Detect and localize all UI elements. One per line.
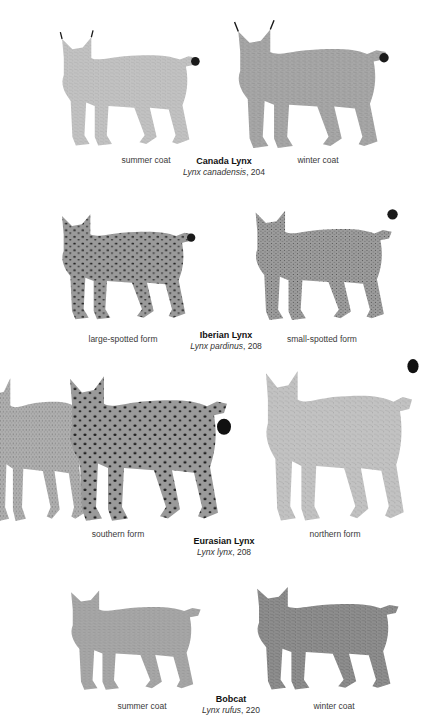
species-scientific-line: Lynx rufus, 220 xyxy=(202,705,260,716)
iberian-lynx-right-label: small-spotted form xyxy=(287,334,357,344)
species-scientific-name: Lynx canadensis xyxy=(183,167,246,177)
iberian-lynx-caption: Iberian Lynx Lynx pardinus, 208 xyxy=(190,330,262,352)
species-scientific-line: Lynx pardinus, 208 xyxy=(190,341,262,352)
plate-bobcat: summer coat winter coat Bobcat Lynx rufu… xyxy=(0,570,432,718)
species-common-name: Bobcat xyxy=(202,694,260,705)
eurasian-lynx-southern-illustration xyxy=(42,358,242,530)
eurasian-lynx-caption: Eurasian Lynx Lynx lynx, 208 xyxy=(193,536,254,558)
canada-lynx-winter-illustration xyxy=(212,12,400,158)
bobcat-left-label: summer coat xyxy=(117,701,166,711)
canada-lynx-caption: Canada Lynx Lynx canadensis, 204 xyxy=(183,156,265,178)
species-scientific-name: Lynx lynx xyxy=(197,547,232,557)
bobcat-summer-illustration xyxy=(48,578,213,696)
eurasian-lynx-left-label: southern form xyxy=(92,529,144,539)
iberian-lynx-large-spotted-illustration xyxy=(22,201,222,326)
species-scientific-name: Lynx rufus xyxy=(202,705,241,715)
eurasian-lynx-right-label: northern form xyxy=(309,529,360,539)
species-page-ref: 204 xyxy=(251,167,265,177)
plate-iberian-lynx: large-spotted form small-spotted form Ib… xyxy=(0,195,432,355)
bobcat-caption: Bobcat Lynx rufus, 220 xyxy=(202,694,260,716)
bobcat-right-label: winter coat xyxy=(313,701,354,711)
species-scientific-line: Lynx canadensis, 204 xyxy=(183,167,265,178)
bobcat-winter-illustration xyxy=(232,574,412,696)
iberian-lynx-small-spotted-illustration xyxy=(228,197,408,327)
eurasian-lynx-northern-illustration xyxy=(240,352,426,530)
plate-canada-lynx: summer coat winter coat Canada Lynx Lynx… xyxy=(0,0,432,185)
species-scientific-line: Lynx lynx, 208 xyxy=(193,547,254,558)
plate-eurasian-lynx: southern form northern form Eurasian Lyn… xyxy=(0,352,432,562)
species-page-ref: 208 xyxy=(237,547,251,557)
species-common-name: Eurasian Lynx xyxy=(193,536,254,547)
canada-lynx-right-label: winter coat xyxy=(297,155,338,165)
species-scientific-name: Lynx pardinus xyxy=(190,341,243,351)
species-page-ref: 208 xyxy=(248,341,262,351)
species-common-name: Canada Lynx xyxy=(183,156,265,167)
canada-lynx-left-label: summer coat xyxy=(121,155,170,165)
canada-lynx-summer-illustration xyxy=(38,18,210,158)
species-common-name: Iberian Lynx xyxy=(190,330,262,341)
iberian-lynx-left-label: large-spotted form xyxy=(89,334,158,344)
species-page-ref: 220 xyxy=(246,705,260,715)
